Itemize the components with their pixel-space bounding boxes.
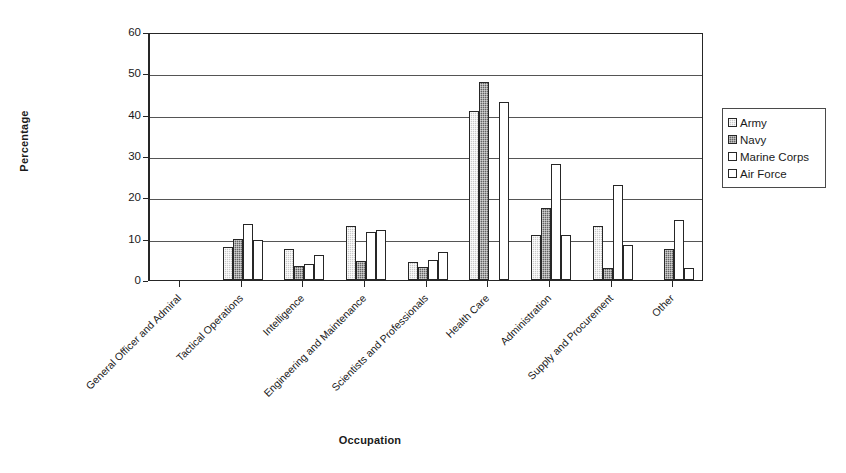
- y-tick-label: 0: [107, 275, 141, 287]
- x-tick-mark: [426, 281, 427, 287]
- y-tick-mark: [143, 198, 148, 199]
- bar: [603, 268, 613, 280]
- legend-label: Army: [740, 117, 767, 129]
- legend-label: Navy: [740, 134, 766, 146]
- bar: [551, 164, 561, 280]
- bar-group: [161, 34, 201, 280]
- y-tick-label: 50: [107, 68, 141, 80]
- bar-group: [531, 34, 571, 280]
- y-tick-label: 60: [107, 27, 141, 39]
- bar: [664, 249, 674, 280]
- legend-item: Navy: [728, 131, 821, 148]
- bar: [593, 226, 603, 280]
- bar: [428, 260, 438, 280]
- bar-group: [654, 34, 694, 280]
- legend-swatch-icon: [728, 135, 737, 144]
- chart-legend: ArmyNavyMarine CorpsAir Force: [722, 108, 826, 188]
- bar: [284, 249, 294, 280]
- legend-swatch-icon: [728, 118, 737, 127]
- x-tick-mark: [302, 281, 303, 287]
- x-tick-mark: [487, 281, 488, 287]
- bar: [418, 267, 428, 280]
- bar-group: [346, 34, 386, 280]
- bar: [223, 247, 233, 280]
- bar: [356, 261, 366, 280]
- x-tick-mark: [179, 281, 180, 287]
- bar: [623, 245, 633, 280]
- legend-item: Army: [728, 114, 821, 131]
- bar: [253, 240, 263, 281]
- bar: [541, 208, 551, 280]
- bar: [294, 266, 304, 280]
- bar: [314, 255, 324, 280]
- y-tick-mark: [143, 240, 148, 241]
- bar: [304, 264, 314, 280]
- bar: [531, 235, 541, 280]
- legend-swatch-icon: [728, 169, 737, 178]
- bar: [233, 239, 243, 280]
- bar: [684, 268, 694, 280]
- bar: [243, 224, 253, 280]
- y-tick-mark: [143, 281, 148, 282]
- y-tick-label: 20: [107, 192, 141, 204]
- x-tick-mark: [241, 281, 242, 287]
- bar: [438, 252, 448, 280]
- bar: [561, 235, 571, 280]
- bar: [408, 262, 418, 280]
- bar-group: [284, 34, 324, 280]
- x-tick-mark: [364, 281, 365, 287]
- y-tick-mark: [143, 116, 148, 117]
- legend-label: Air Force: [740, 168, 787, 180]
- y-tick-label: 10: [107, 234, 141, 246]
- legend-swatch-icon: [728, 152, 737, 161]
- bar-group: [408, 34, 448, 280]
- bar: [674, 220, 684, 280]
- y-tick-label: 40: [107, 110, 141, 122]
- bar: [366, 232, 376, 280]
- bar-group: [223, 34, 263, 280]
- y-tick-mark: [143, 33, 148, 34]
- x-tick-mark: [611, 281, 612, 287]
- bar-chart: Percentage 0102030405060 General Officer…: [0, 0, 846, 473]
- legend-label: Marine Corps: [740, 151, 809, 163]
- legend-item: Air Force: [728, 165, 821, 182]
- y-axis-title: Percentage: [18, 81, 30, 201]
- y-tick-mark: [143, 74, 148, 75]
- bar-group: [593, 34, 633, 280]
- x-tick-mark: [549, 281, 550, 287]
- bar: [469, 111, 479, 280]
- y-tick-mark: [143, 157, 148, 158]
- x-axis-title: Occupation: [0, 434, 740, 446]
- bar: [479, 82, 489, 280]
- bar: [346, 226, 356, 280]
- y-tick-label: 30: [107, 151, 141, 163]
- legend-item: Marine Corps: [728, 148, 821, 165]
- bar: [613, 185, 623, 280]
- bar-group: [469, 34, 509, 280]
- bar: [376, 230, 386, 280]
- x-tick-mark: [672, 281, 673, 287]
- bar: [499, 102, 509, 280]
- plot-area: [148, 33, 703, 281]
